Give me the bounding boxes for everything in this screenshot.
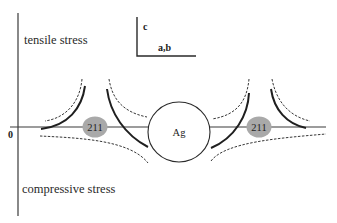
tensile-stress-label: tensile stress [24,33,88,47]
axis-c-label: c [143,21,148,32]
zero-label: 0 [8,129,13,140]
ag-particle: Ag [148,102,210,162]
right-211-particle: 211 [247,117,272,138]
right-particle-stress-curves [211,79,326,161]
axis-ab-label: a,b [158,42,172,53]
crystal-axes-indicator: c a,b [137,17,196,56]
left-211-label: 211 [87,122,102,133]
right-211-label: 211 [251,122,266,133]
stress-distribution-diagram: tensile stress compressive stress 0 c a,… [0,0,337,223]
left-211-particle: 211 [83,117,108,138]
compressive-stress-label: compressive stress [22,182,116,196]
ag-particle-label: Ag [173,127,187,138]
